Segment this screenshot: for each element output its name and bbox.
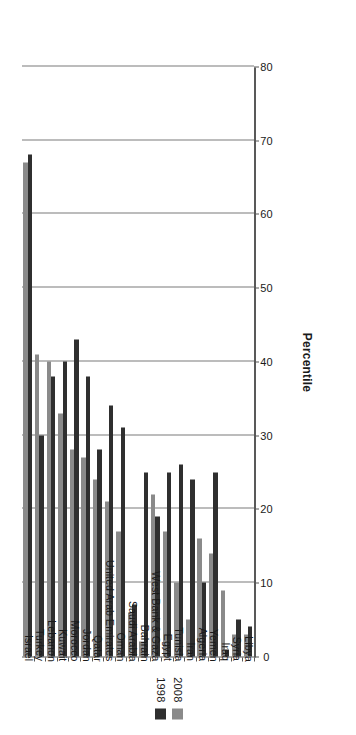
bar-group [231,67,243,656]
bar-group [34,67,46,656]
bar-series-container [22,67,254,656]
bar-1998 [97,450,101,657]
value-axis-tick [254,214,259,215]
value-axis-tick-label: 30 [260,430,273,441]
bar-group [92,67,104,656]
value-axis-tick [254,435,259,436]
bar-1998 [39,435,43,656]
bar-group [22,67,34,656]
bar-group [45,67,57,656]
bar-group [161,67,173,656]
category-label: Tunisia [173,627,184,661]
value-axis-tick-label: 50 [260,283,273,294]
bar-group [150,67,162,656]
bar-group [126,67,138,656]
bar-group [115,67,127,656]
value-axis-tick-label: 20 [260,504,273,515]
bar-group [173,67,185,656]
bar-1998 [167,472,171,656]
value-axis-tick [254,287,259,288]
category-label: Turkey [34,629,45,661]
value-axis-title: Percentile [300,67,314,657]
value-axis-tick [254,582,259,583]
plot-area [22,67,254,657]
category-label: Morocco [69,620,80,661]
bar-1998 [121,427,125,656]
value-axis-tick [254,66,259,67]
bar-1998 [51,376,55,656]
category-label: Iraq [220,643,231,662]
category-label: Kuwait [57,629,68,661]
bar-1998 [86,376,90,656]
category-label: Egypt [162,634,173,661]
category-label: Syria [231,637,242,661]
bar-group [219,67,231,656]
bar-1998 [63,361,67,656]
category-label: Lebanon [46,619,57,661]
category-label: Bahrain [139,624,150,661]
value-axis-tick-label: 70 [260,135,273,146]
category-label: Jordan [81,628,92,661]
category-label: Yemen [208,628,219,661]
value-axis-tick [254,509,259,510]
value-axis-tick-label: 60 [260,209,273,220]
category-label: Saudi Arabia [127,600,138,661]
bar-group [138,67,150,656]
bar-1998 [28,155,32,657]
category-axis: IsraelTurkeyLebanonKuwaitMoroccoJordanQa… [22,657,254,735]
bar-group [196,67,208,656]
bar-group [57,67,69,656]
category-label: United Arab Emirates [104,560,115,661]
category-label: Iran [185,643,196,662]
bar-group [208,67,220,656]
category-label: Israel [23,635,34,661]
category-label: Qatar [92,634,103,661]
gridline [22,65,254,66]
value-axis-tick [254,361,259,362]
value-axis-tick-label: 80 [260,62,273,73]
bar-group [80,67,92,656]
category-label: Libya [243,635,254,661]
value-axis-tick-label: 10 [260,578,273,589]
category-label: West Bank & Gaza [150,571,161,661]
category-label: Oman [115,632,126,661]
bar-group [184,67,196,656]
bar-group [68,67,80,656]
bar-1998 [74,339,78,656]
bar-chart-figure: 19982008 01020304050607080 Percentile Is… [0,0,356,735]
value-axis-tick [254,140,259,141]
chart-figure-rotator: 19982008 01020304050607080 Percentile Is… [0,0,356,735]
value-axis: 01020304050607080 [254,67,294,657]
value-axis-tick-label: 0 [263,652,269,663]
category-label: Algeria [197,628,208,661]
bar-1998 [190,479,194,656]
value-axis-tick-label: 40 [260,357,273,368]
bar-group [242,67,254,656]
